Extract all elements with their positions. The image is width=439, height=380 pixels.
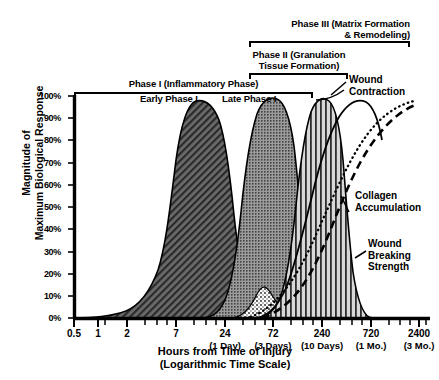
x-axis-title-line1: Hours from Time of Injury xyxy=(60,345,390,358)
phase-2-label-line1: Phase II (Granulation xyxy=(236,49,362,60)
x-tick-label-7: 7 xyxy=(156,328,196,339)
y-tick-label-0: 0% xyxy=(31,314,61,323)
wound-contraction-label-line1: Wound xyxy=(349,74,405,86)
wound-breaking-strength-label: Wound Breaking Strength xyxy=(368,238,411,273)
x-tick-label-720: 720 xyxy=(351,328,391,339)
wound-healing-chart: Phase III (Matrix Formation & Remodeling… xyxy=(0,0,439,380)
early-phase-1-label: Early Phase I xyxy=(140,93,198,104)
breaking-label-line2: Breaking xyxy=(368,250,411,262)
late-phase-1-label: Late Phase I xyxy=(222,93,276,104)
bracket-phase-3 xyxy=(249,41,410,47)
x-axis-title: Hours from Time of Injury (Logarithmic T… xyxy=(60,345,390,371)
x-tick-label-2400: 2400 xyxy=(399,328,439,339)
x-tick-label-24: 24 xyxy=(205,328,245,339)
y-tick-label-10: 10% xyxy=(31,292,61,301)
breaking-label-line1: Wound xyxy=(368,238,411,250)
phase-3-label: Phase III (Matrix Formation & Remodeling… xyxy=(210,18,410,40)
y-axis-title-line1: Magnitude of xyxy=(20,68,33,258)
x-tick-label-2: 2 xyxy=(107,328,147,339)
x-sublabel-3-mo: (3 Mo.) xyxy=(387,340,439,351)
collagen-label-line2: Accumulation xyxy=(355,202,421,214)
x-tick-label-240: 240 xyxy=(302,328,342,339)
collagen-accumulation-label: Collagen Accumulation xyxy=(355,190,421,213)
phase-2-label-line2: Tissue Formation) xyxy=(236,60,362,71)
y-axis-title-line2: Maximum Biological Response xyxy=(33,68,46,258)
x-axis-title-line2: (Logarithmic Time Scale) xyxy=(60,358,390,371)
y-axis-title: Magnitude of Maximum Biological Response xyxy=(20,68,46,258)
x-tick-label-72: 72 xyxy=(253,328,293,339)
y-tick-label-20: 20% xyxy=(31,270,61,279)
collagen-label-line1: Collagen xyxy=(355,190,421,202)
phase-3-label-line2: & Remodeling) xyxy=(210,29,410,40)
wound-contraction-label: Wound Contraction xyxy=(349,74,405,97)
phase-1-label: Phase I (Inflammatory Phase) xyxy=(74,78,313,89)
wound-contraction-label-line2: Contraction xyxy=(349,86,405,98)
phase-3-label-line1: Phase III (Matrix Formation xyxy=(210,18,410,29)
phase-2-label: Phase II (Granulation Tissue Formation) xyxy=(236,49,362,71)
breaking-label-line3: Strength xyxy=(368,261,411,273)
